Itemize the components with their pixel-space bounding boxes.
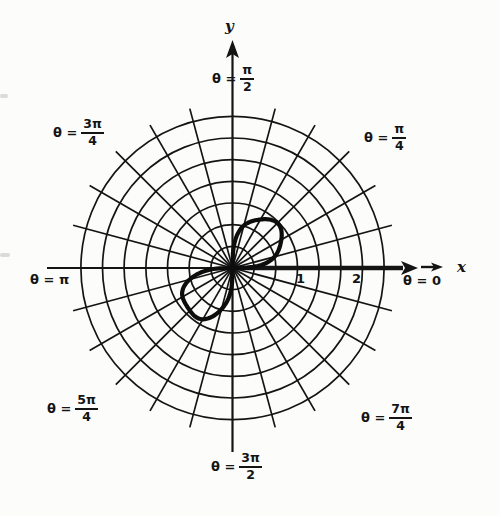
fraction-numerator: 7π [389, 403, 412, 419]
fraction-numerator: 3π [81, 118, 104, 134]
angle-label-prefix: θ = [211, 460, 235, 473]
angle-label-pi-over-4: θ = π 4 [364, 123, 406, 152]
angle-label-prefix: θ = [361, 411, 385, 424]
fraction-denominator: 4 [82, 410, 91, 424]
fraction: 3π 4 [81, 118, 104, 147]
fraction: 7π 4 [389, 403, 412, 432]
x-tick-1: 1 [296, 272, 305, 285]
fraction-denominator: 4 [88, 134, 97, 148]
grid-ray [150, 125, 232, 266]
grid-ray [190, 109, 232, 267]
fraction-numerator: 5π [75, 394, 98, 410]
grid-ray [90, 269, 231, 351]
fraction-denominator: 2 [243, 80, 252, 94]
grid-ray [234, 269, 392, 311]
grid-ray [234, 269, 349, 384]
angle-label-5pi-over-4: θ = 5π 4 [47, 394, 98, 423]
grid-ray [73, 269, 231, 311]
grid-ray [233, 109, 275, 267]
x-axis-label: x [457, 260, 466, 275]
fraction: 5π 4 [75, 394, 98, 423]
grid-ray [190, 270, 232, 428]
grid-ray [233, 270, 275, 428]
grid-ray [234, 225, 392, 267]
angle-label-3pi-over-2: θ = 3π 2 [211, 452, 262, 481]
angle-label-prefix: θ = [53, 126, 77, 139]
y-axis-label: y [225, 19, 234, 34]
polar-figure: y x 1 2 θ = π 2 θ = 3π 4 θ = π 4 θ = π θ… [0, 0, 500, 516]
grid-ray [234, 151, 349, 266]
angle-label-pi-over-2: θ = π 2 [212, 64, 254, 93]
fraction-denominator: 4 [395, 139, 404, 153]
grid-ray [234, 125, 316, 266]
grid-ray [234, 270, 316, 411]
fraction-numerator: π [392, 123, 406, 139]
grid-ray [116, 151, 231, 266]
scan-artifact [0, 253, 10, 257]
grid-ray [234, 186, 375, 268]
fraction: π 2 [240, 64, 254, 93]
scan-artifact [0, 94, 8, 98]
angle-label-prefix: θ = [364, 131, 388, 144]
angle-label-prefix: θ = [47, 402, 71, 415]
grid-ray [116, 269, 231, 384]
fraction-numerator: π [240, 64, 254, 80]
fraction: 3π 2 [239, 452, 262, 481]
grid-ray [150, 270, 232, 411]
angle-label-3pi-over-4: θ = 3π 4 [53, 118, 104, 147]
angle-label-7pi-over-4: θ = 7π 4 [361, 403, 412, 432]
fraction: π 4 [392, 123, 406, 152]
fraction-denominator: 2 [246, 468, 255, 482]
grid-ray [73, 225, 231, 267]
x-tick-2: 2 [352, 272, 361, 285]
angle-label-0: θ = 0 [403, 274, 441, 288]
fraction-denominator: 4 [396, 419, 405, 433]
angle-label-prefix: θ = [212, 72, 236, 85]
angle-label-pi: θ = π [30, 273, 69, 287]
fraction-numerator: 3π [239, 452, 262, 468]
grid-ray [90, 186, 231, 268]
